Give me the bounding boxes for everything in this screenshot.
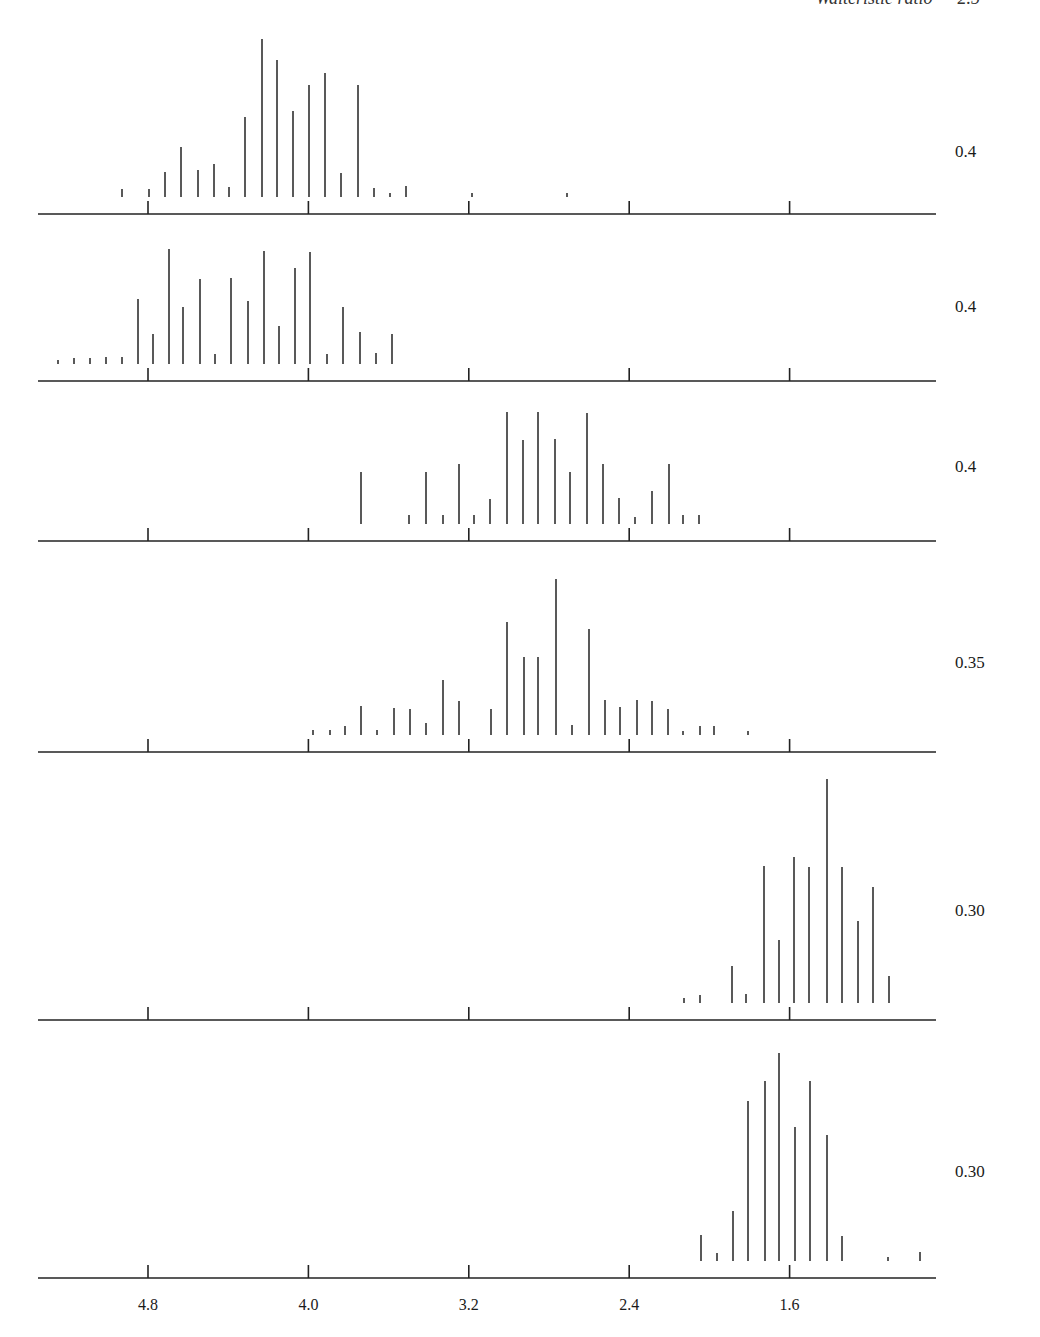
panel-label: 0.4	[955, 297, 976, 317]
panel-6	[38, 1053, 936, 1278]
panel-2	[38, 249, 936, 381]
x-tick-label: 4.8	[138, 1296, 158, 1314]
x-tick-label: 2.4	[619, 1296, 639, 1314]
x-tick-label: 3.2	[459, 1296, 479, 1314]
panel-label: 0.30	[955, 901, 985, 921]
panel-label: 0.4	[955, 457, 976, 477]
panel-label: 0.4	[955, 142, 976, 162]
x-tick-label: 1.6	[780, 1296, 800, 1314]
panel-label: 0.30	[955, 1162, 985, 1182]
panel-5	[38, 779, 936, 1020]
panel-4	[38, 579, 936, 752]
panel-3	[38, 412, 936, 541]
x-tick-label: 4.0	[298, 1296, 318, 1314]
panel-label: 0.35	[955, 653, 985, 673]
panel-1	[38, 39, 936, 214]
stick-spectra-chart	[0, 0, 1040, 1337]
